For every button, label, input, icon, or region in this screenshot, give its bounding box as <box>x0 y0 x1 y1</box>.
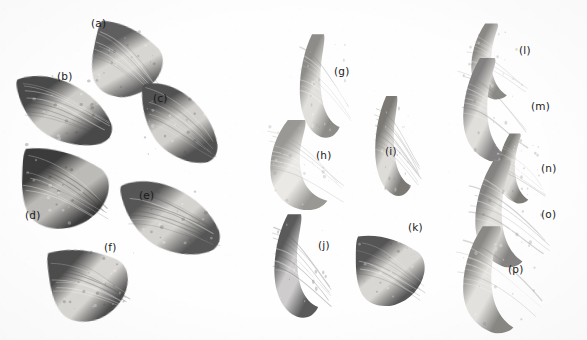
specimen-label-b: (b) <box>57 71 72 82</box>
specimen-body-b <box>16 71 113 150</box>
specimen-label-f: (f) <box>104 242 117 253</box>
specimen-label-c: (c) <box>153 93 168 104</box>
specimen-label-l: (l) <box>519 45 531 56</box>
specimen-label-h: (h) <box>316 150 331 161</box>
specimen-label-j: (j) <box>318 240 330 251</box>
specimen-i <box>370 94 424 198</box>
specimen-c <box>133 76 227 169</box>
specimen-label-d: (d) <box>25 210 40 221</box>
specimen-p <box>450 224 546 334</box>
specimen-j <box>268 212 334 320</box>
specimen-body-f <box>46 242 133 326</box>
specimen-label-g: (g) <box>334 66 349 77</box>
specimen-e <box>117 167 226 265</box>
specimen-label-p: (p) <box>508 264 523 275</box>
specimen-label-e: (e) <box>139 190 154 201</box>
specimen-k <box>352 232 428 308</box>
specimen-h <box>262 118 348 212</box>
specimen-body-e <box>120 174 222 262</box>
specimen-label-o: (o) <box>541 209 556 220</box>
specimen-label-k: (k) <box>408 222 423 233</box>
figure-plate: (a)(b)(c)(d)(e)(f)(g)(h)(i)(j)(k)(l)(m)(… <box>0 0 587 340</box>
specimen-f <box>41 237 137 328</box>
specimen-label-n: (n) <box>541 163 556 174</box>
specimen-label-a: (a) <box>91 18 106 29</box>
specimen-label-m: (m) <box>531 101 550 112</box>
specimen-label-i: (i) <box>385 146 397 157</box>
